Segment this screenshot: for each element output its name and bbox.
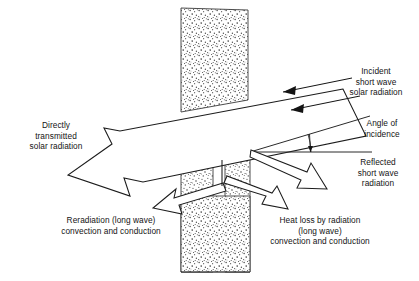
label-angle-of-incidence: Angle of incidence: [348, 118, 416, 139]
label-reradiation-long-wave: Reradiation (long wave) convection and c…: [38, 215, 184, 236]
wall-upper-section: [181, 8, 248, 112]
solar-radiation-diagram: Incident short wave solar radiation Angl…: [0, 0, 419, 281]
label-reflected-short-wave-radiation: Reflected short wave radiation: [338, 157, 418, 189]
reflected-short-wave-arrow: [250, 150, 327, 189]
label-directly-transmitted-solar-radiation: Directly transmitted solar radiation: [4, 120, 108, 152]
label-incident-short-wave-solar-radiation: Incident short wave solar radiation: [334, 66, 418, 98]
wall-base-band: [181, 196, 250, 272]
label-heat-loss-by-radiation: Heat loss by radiation (long wave) conve…: [244, 215, 396, 247]
